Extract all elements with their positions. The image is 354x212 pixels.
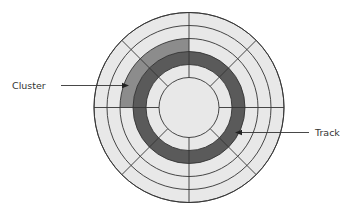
disk-diagram: Cluster Track	[0, 0, 354, 212]
spindle-circle	[159, 78, 219, 138]
cluster-label: Cluster	[12, 80, 46, 91]
track-label: Track	[314, 127, 340, 138]
